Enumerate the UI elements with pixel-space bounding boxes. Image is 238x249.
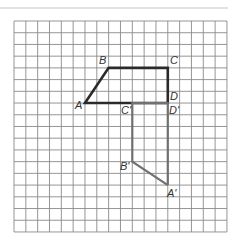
image-quadrilateral-a-prime-b-prime-c-prime-d-prime [132,103,167,185]
label-b-prime: B' [120,160,130,172]
original-quadrilateral-abcd [85,68,168,103]
label-b: B [99,54,106,66]
label-d: D [170,90,178,102]
label-c: C [170,54,178,66]
label-d-prime: D' [169,104,180,116]
label-c-prime: C' [121,104,132,116]
label-a-prime: A' [166,187,177,199]
grid-lines [14,21,227,232]
label-a: A [74,99,82,111]
grid-diagram: A B C D A' B' C' D' [0,0,238,249]
